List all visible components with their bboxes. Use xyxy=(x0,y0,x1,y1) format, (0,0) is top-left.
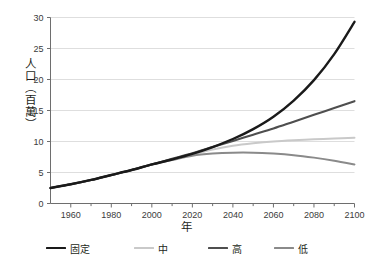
y-tick-label: 10 xyxy=(22,137,44,147)
data-series-group xyxy=(51,22,355,188)
series-line-2 xyxy=(51,101,355,188)
legend-item-0[interactable]: 固定 xyxy=(46,241,90,256)
legend-line-icon xyxy=(274,247,294,249)
legend-line-icon xyxy=(46,247,66,249)
series-line-0 xyxy=(51,22,355,188)
y-tick-label: 20 xyxy=(22,75,44,85)
legend-item-3[interactable]: 低 xyxy=(274,241,308,256)
series-line-3 xyxy=(51,153,355,188)
y-tick-label: 30 xyxy=(22,13,44,23)
legend-item-1[interactable]: 中 xyxy=(134,241,168,256)
chart-legend: 固定中高低 xyxy=(46,239,336,257)
population-projection-chart: 人口（百萬） 051015202530 19601980200020202040… xyxy=(0,0,373,263)
y-tick-label: 25 xyxy=(22,44,44,54)
legend-label: 高 xyxy=(232,241,242,256)
y-tick-label: 15 xyxy=(22,106,44,116)
legend-label: 中 xyxy=(158,241,168,256)
legend-label: 固定 xyxy=(70,241,90,256)
legend-line-icon xyxy=(134,247,154,249)
series-line-1 xyxy=(51,138,355,188)
y-axis-title: 人口（百萬） xyxy=(14,58,36,130)
y-tick-label: 0 xyxy=(22,199,44,209)
x-axis-title: 年 xyxy=(0,218,373,234)
y-tick-label: 5 xyxy=(22,168,44,178)
legend-line-icon xyxy=(208,247,228,249)
legend-label: 低 xyxy=(298,241,308,256)
legend-item-2[interactable]: 高 xyxy=(208,241,242,256)
